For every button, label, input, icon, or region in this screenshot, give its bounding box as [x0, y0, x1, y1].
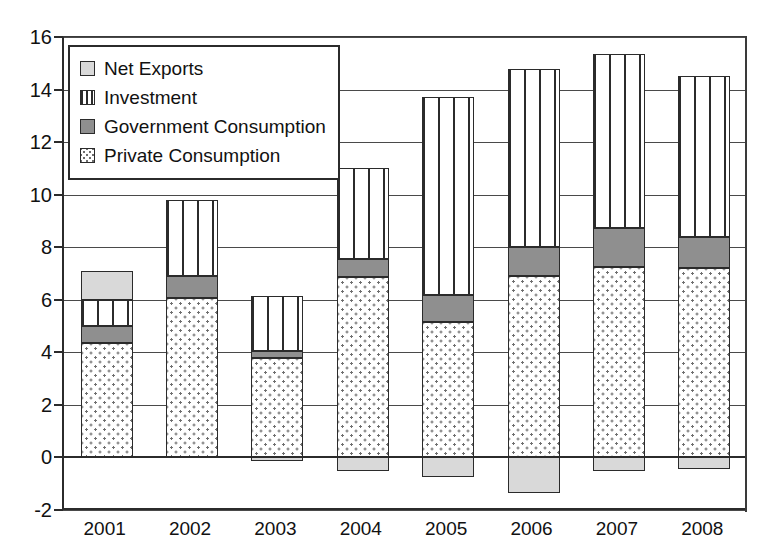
legend-item-private-consumption: Private Consumption [80, 141, 328, 170]
bar-segment-2003-investment [251, 296, 303, 351]
legend-swatch-icon-investment [80, 90, 95, 105]
legend-label: Private Consumption [104, 146, 280, 165]
bar-segment-2007-private-consumption [593, 267, 645, 458]
bar-segment-2004-private-consumption [337, 277, 389, 457]
bar-segment-2008-investment [678, 76, 730, 236]
bar-segment-2005-government-consumption [422, 295, 474, 323]
bar-segment-2005-private-consumption [422, 322, 474, 457]
bar-segment-2008-government-consumption [678, 237, 730, 269]
bar-segment-2002-investment [166, 200, 218, 276]
chart-legend: Net ExportsInvestmentGovernment Consumpt… [68, 45, 340, 180]
legend-item-net-exports: Net Exports [80, 54, 328, 83]
y-axis-label-4: 4 [8, 342, 52, 362]
bar-segment-2004-government-consumption [337, 259, 389, 277]
bar-group-2004 [337, 37, 389, 510]
bar-segment-2004-investment [337, 168, 389, 259]
legend-label: Net Exports [104, 59, 203, 78]
legend-item-investment: Investment [80, 83, 328, 112]
bar-group-2008 [678, 37, 730, 510]
bar-segment-2003-private-consumption [251, 358, 303, 458]
bar-segment-2005-investment [422, 97, 474, 294]
stacked-bar-chart: -20246810121416 200120022003200420052006… [0, 0, 765, 559]
y-axis-label-8: 8 [8, 237, 52, 257]
bar-segment-2001-net-exports [81, 271, 133, 300]
bar-segment-2006-government-consumption [508, 247, 560, 276]
legend-item-government-consumption: Government Consumption [80, 112, 328, 141]
bar-segment-2004-net-exports [337, 457, 389, 470]
bar-segment-2002-private-consumption [166, 298, 218, 457]
legend-swatch-icon-net-exports [80, 61, 95, 76]
bar-segment-2007-government-consumption [593, 228, 645, 267]
legend-label: Government Consumption [104, 117, 326, 136]
bar-segment-2007-investment [593, 54, 645, 227]
y-axis-label-16: 16 [8, 27, 52, 47]
y-axis-label-12: 12 [8, 132, 52, 152]
bar-segment-2003-government-consumption [251, 351, 303, 358]
bar-group-2007 [593, 37, 645, 510]
bar-group-2005 [422, 37, 474, 510]
bar-segment-2001-investment [81, 300, 133, 326]
y-axis-label-2: 2 [8, 395, 52, 415]
y-axis-label-0: 0 [8, 447, 52, 467]
bar-segment-2006-net-exports [508, 457, 560, 492]
bar-segment-2002-government-consumption [166, 276, 218, 298]
bar-segment-2006-investment [508, 69, 560, 248]
bar-segment-2001-government-consumption [81, 326, 133, 343]
y-axis-label--2: -2 [8, 500, 52, 520]
bar-group-2006 [508, 37, 560, 510]
legend-label: Investment [104, 88, 197, 107]
bar-segment-2006-private-consumption [508, 276, 560, 457]
legend-swatch-icon-government-consumption [80, 119, 95, 134]
y-axis-label-14: 14 [8, 80, 52, 100]
y-axis-label-6: 6 [8, 290, 52, 310]
x-axis-label-2008: 2008 [647, 518, 757, 540]
bar-segment-2003-net-exports [251, 457, 303, 461]
bar-segment-2007-net-exports [593, 457, 645, 470]
y-axis-label-10: 10 [8, 185, 52, 205]
plot-frame-right [745, 36, 747, 512]
bar-segment-2001-private-consumption [81, 343, 133, 457]
gridline--2 [62, 510, 745, 511]
bar-segment-2005-net-exports [422, 457, 474, 477]
legend-swatch-icon-private-consumption [80, 148, 95, 163]
bar-segment-2008-net-exports [678, 457, 730, 469]
bar-segment-2008-private-consumption [678, 268, 730, 457]
